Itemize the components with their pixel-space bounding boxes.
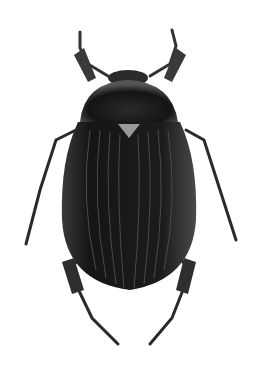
beetle-icon bbox=[0, 0, 261, 371]
